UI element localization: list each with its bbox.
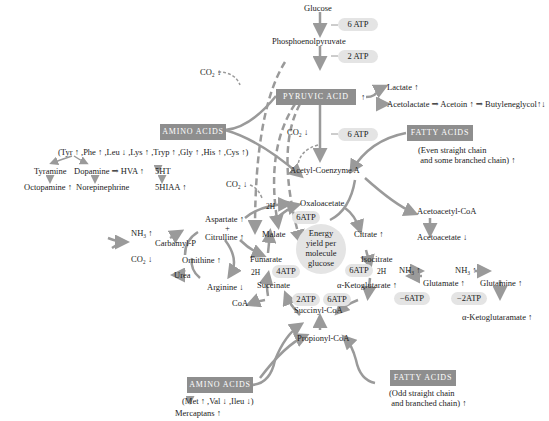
pep-label: Phosphoenolpyruvate: [272, 37, 346, 46]
co2-urea-label: CO₂ ↓: [131, 255, 152, 264]
glutamate-label: Glutamate ↑: [423, 279, 465, 288]
fatty-acids-top-desc-2: and some branched chain) ↑: [418, 155, 515, 165]
acetoacetate-label: Acetoacetate ↓: [417, 233, 467, 242]
fatty-acids-bottom-desc-2: and branched chain) ↑: [389, 398, 466, 408]
citrulline-label: Citrulline ↑: [205, 233, 244, 242]
mercaptans-label: Mercaptans ↑: [175, 409, 221, 418]
2h-isocitrate-label: 2H: [377, 268, 386, 276]
carbamyl-p-label: Carbamyl-P: [155, 239, 196, 248]
atp-badge-glycolysis-3: 6 ATP: [338, 128, 378, 141]
amino-acids-top-box: AMINO ACIDS: [160, 124, 226, 140]
atp-badge-glutamine: −2ATP: [451, 292, 487, 305]
atp-badge-isocitrate: 6ATP: [345, 264, 373, 277]
succinyl-coa-label: Succinyl-CoA: [294, 306, 343, 315]
citrate-label: Citrate ↑: [354, 230, 384, 239]
pyruvic-acid-box: PYRUVIC ACID: [276, 89, 356, 105]
acetolactate-chain: Acetolactate ⇒ Acetoin ↑ ⇒ Butyleneglyco…: [387, 100, 545, 109]
energy-yield-center: Energy yield per molecule glucose: [296, 224, 346, 274]
fatty-acids-bottom-desc-1: (Odd straight chain: [389, 388, 455, 398]
fatty-acids-top-box: FATTY ACIDS: [407, 125, 473, 141]
atp-badge-glycolysis-1: 6 ATP: [338, 18, 378, 31]
amino-acids-bottom-list: (Met ↑ ,Val ↓ ,Ileu ↓): [182, 397, 254, 406]
fatty-acids-bottom-box: FATTY ACIDS: [390, 370, 456, 386]
atp-badge-glycolysis-2: 2 ATP: [338, 50, 378, 63]
amino-acids-top-list: (Tyr ↑ ,Phe ↑ ,Leu ↓ ,Lys ↑ ,Tryp ↑ ,Gly…: [58, 148, 248, 157]
acetyl-coa-label: Acetyl-Coenzyme A: [290, 166, 360, 175]
fatty-acids-top-desc: (Even straight chain and some branched c…: [418, 145, 515, 165]
center-text-2: yield per: [296, 238, 346, 248]
center-text-3: molecule: [296, 248, 346, 258]
lactate-label: Lactate ↑: [387, 83, 418, 92]
glucose-label: Glucose: [304, 4, 332, 13]
fatty-acids-top-desc-1: (Even straight chain: [418, 145, 486, 155]
glutamine-label: Glutamine ↑: [480, 279, 522, 288]
co2-mid-label: CO₂ ↓: [287, 128, 308, 137]
malate-label: Malate: [262, 230, 286, 239]
norepinephrine-label: Norepinephrine: [76, 183, 129, 192]
5ht-label: 5HT: [155, 167, 171, 176]
atp-badge-fumarate: 4ATP: [272, 265, 300, 278]
center-text-1: Energy: [296, 228, 346, 238]
succinate-label: Succinate: [257, 281, 290, 290]
5hiaa-label: 5HIAA ↑: [155, 183, 186, 192]
nh3-urea-label: NH₃ ↑: [131, 229, 153, 238]
pyruvic-up-arrow: ↑: [361, 93, 365, 102]
dopamine-chain: Dopamine ⇒ HVA ↑: [74, 167, 144, 176]
fumarate-label: Fumarate: [250, 255, 282, 264]
center-text-4: glucose: [296, 258, 346, 268]
oxaloacetate-label: Oxaloacetate: [300, 199, 344, 208]
nh3-glutamate-label: NH₃ ↑: [399, 266, 421, 275]
2h-fumarate-label: 2H: [251, 269, 260, 277]
atp-badge-oxaloacetate: 6ATP: [292, 211, 320, 224]
fatty-acids-bottom-desc: (Odd straight chain and branched chain) …: [389, 388, 466, 408]
urea-label: Urea: [174, 271, 191, 280]
coa-label: CoA: [232, 299, 248, 308]
alpha-ketoglutarate-label: α-Ketoglutarate ↑: [337, 281, 397, 290]
arginine-label: Arginine ↓: [207, 283, 243, 292]
tyramine-label: Tyramine: [34, 167, 66, 176]
2h-malate-label: 2H: [266, 203, 275, 211]
isocitrate-label: Isocitrate: [361, 255, 393, 264]
co2-top-label: CO₂ ↓: [200, 68, 221, 77]
propionyl-coa-label: Propionyl-CoA: [297, 334, 349, 343]
alpha-ketoglutaramate-label: α-Ketoglutaramate ↑: [462, 313, 532, 322]
amino-acids-bottom-box: AMINO ACIDS: [187, 377, 253, 393]
ornithine-label: Ornithine ↑: [182, 256, 221, 265]
acetoacetyl-coa-label: Acetoacetyl-CoA: [417, 207, 476, 216]
co2-amino-label: CO₂ ↓: [226, 180, 247, 189]
atp-badge-glutamate: −6ATP: [394, 292, 430, 305]
nh3-glutamine-label: NH₃ ↑: [455, 266, 477, 275]
octopamine-label: Octopamine ↑: [24, 183, 72, 192]
